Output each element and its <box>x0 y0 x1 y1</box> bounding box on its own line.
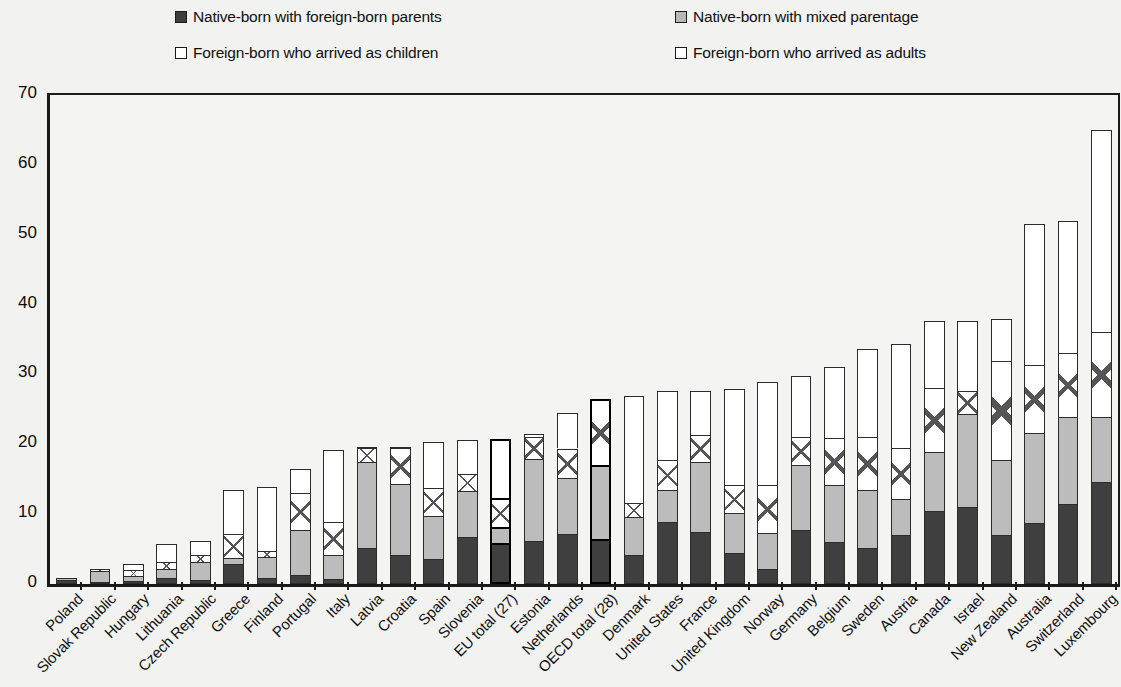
bar-segment <box>1091 417 1112 482</box>
x-axis-tick <box>881 582 883 590</box>
bar-segment <box>123 570 144 576</box>
bar-segment <box>190 541 211 554</box>
bar-segment <box>257 578 278 584</box>
bar-segment <box>457 440 478 474</box>
x-axis-tick <box>1015 582 1017 590</box>
x-axis-tick <box>114 582 116 590</box>
x-axis-label-denmark: Denmark <box>599 590 653 644</box>
bar-segment <box>323 579 344 584</box>
bar-segment <box>357 448 378 463</box>
bar-segment <box>357 548 378 584</box>
bar-segment <box>423 516 444 559</box>
bar-segment <box>90 582 111 584</box>
bar-segment <box>357 447 378 448</box>
bar-segment <box>290 493 311 529</box>
bar-segment <box>590 465 611 540</box>
bar-segment <box>490 439 511 498</box>
white-swatch-icon <box>675 47 687 59</box>
bar-segment <box>123 581 144 584</box>
x-axis-label-germany: Germany <box>765 590 820 645</box>
bar-segment <box>524 434 545 437</box>
x-axis-label-czech-republic: Czech Republic <box>135 590 219 674</box>
bar-segment <box>757 485 778 533</box>
legend-label: Foreign-born who arrived as adults <box>693 44 926 62</box>
bar-segment <box>390 484 411 555</box>
x-axis-tick <box>514 582 516 590</box>
bar-segment <box>624 517 645 555</box>
bar-segment <box>490 498 511 527</box>
bar-segment <box>524 459 545 541</box>
bar-segment <box>690 435 711 462</box>
x-axis-tick <box>347 582 349 590</box>
bar-segment <box>257 487 278 551</box>
bar-segment <box>156 562 177 570</box>
bar-segment <box>90 569 111 571</box>
bar-segment <box>724 553 745 584</box>
bar-segment <box>924 321 945 389</box>
bar-segment <box>791 530 812 584</box>
bar-segment <box>390 448 411 484</box>
bar-segment <box>657 460 678 489</box>
bar-segment <box>223 564 244 584</box>
x-axis-label-netherlands: Netherlands <box>519 590 587 658</box>
bar-segment <box>957 321 978 392</box>
bar-segment <box>857 548 878 584</box>
y-axis-tick-label: 50 <box>18 223 37 243</box>
legend-item-native-born-mixed-parentage: Native-born with mixed parentage <box>675 8 918 26</box>
bar-segment <box>457 474 478 491</box>
legend-item-foreign-born-children: Foreign-born who arrived as children <box>175 44 438 62</box>
y-axis-tick-label: 30 <box>18 362 37 382</box>
x-axis-label-luxembourg: Luxembourg <box>1051 590 1121 660</box>
bar-segment <box>1024 224 1045 365</box>
bar-segment <box>1024 433 1045 523</box>
bar-segment <box>857 437 878 490</box>
bar-segment <box>323 522 344 555</box>
x-axis-label-austria: Austria <box>876 590 920 634</box>
bar-segment <box>190 555 211 562</box>
x-axis-tick <box>781 582 783 590</box>
x-axis-tick <box>381 582 383 590</box>
bar-segment <box>490 527 511 542</box>
bar-segment <box>824 542 845 584</box>
bar-segment <box>557 478 578 534</box>
bar-segment <box>624 503 645 517</box>
x-axis-label-belgium: Belgium <box>804 590 853 639</box>
x-axis-tick <box>715 582 717 590</box>
x-axis-label-italy: Italy <box>322 590 353 621</box>
bar-segment <box>223 490 244 533</box>
x-axis-tick <box>481 582 483 590</box>
x-axis-label-portugal: Portugal <box>269 590 319 640</box>
bar-segment <box>791 437 812 466</box>
bar-segment <box>991 460 1012 535</box>
x-axis-label-united-states: United States <box>613 590 687 664</box>
bar-segment <box>891 448 912 498</box>
bar-segment <box>257 557 278 577</box>
bar-segment <box>824 367 845 438</box>
bar-segment <box>123 564 144 570</box>
x-axis-label-united-kingdom: United Kingdom <box>668 590 754 676</box>
y-axis-labels: 010203040506070 <box>0 93 47 582</box>
bar-segment <box>924 388 945 452</box>
bar-segment <box>957 414 978 508</box>
x-axis-label-estonia: Estonia <box>507 590 553 636</box>
bar-segment <box>757 382 778 485</box>
bar-segment <box>824 485 845 542</box>
x-axis-label-lithuania: Lithuania <box>132 590 186 644</box>
bar-segment <box>1024 365 1045 433</box>
x-axis-tick <box>1082 582 1084 590</box>
x-axis-label-poland: Poland <box>42 590 86 634</box>
x-axis-tick <box>614 582 616 590</box>
bar-segment <box>223 558 244 564</box>
bar-segment <box>423 442 444 487</box>
bar-segment <box>323 555 344 579</box>
bar-segment <box>1091 332 1112 417</box>
x-axis-label-israel: Israel <box>950 590 987 627</box>
bar-segment <box>457 491 478 536</box>
x-axis-label-latvia: Latvia <box>347 590 386 629</box>
bar-segment <box>724 513 745 552</box>
x-axis-tick <box>448 582 450 590</box>
legend-item-native-born-foreign-parents: Native-born with foreign-born parents <box>175 8 441 26</box>
bar-segment <box>690 391 711 435</box>
bar-segment <box>190 580 211 584</box>
x-axis-label-greece: Greece <box>207 590 253 636</box>
